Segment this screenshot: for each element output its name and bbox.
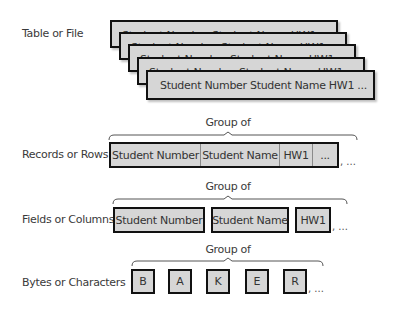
records-brace [108, 130, 360, 142]
fields-trailing-ellipsis: , ... [332, 221, 348, 232]
field-student-number: Student Number [113, 207, 205, 233]
bytes-or-characters-label: Bytes or Characters [22, 276, 125, 289]
records-or-rows-label: Records or Rows [22, 148, 108, 161]
bytes-brace [131, 256, 327, 268]
byte-e: E [245, 269, 269, 294]
field-hw1: HW1 [295, 207, 331, 233]
record-row: Student Number Student Name HW1 ... [109, 142, 339, 168]
record-cell-hw1: HW1 [280, 144, 313, 166]
fields-group-label: Group of [205, 180, 250, 193]
records-trailing-ellipsis: , ... [340, 156, 356, 167]
field-student-name: Student Name [211, 207, 289, 233]
byte-r: R [283, 269, 307, 294]
fields-or-columns-label: Fields or Columns [22, 213, 114, 226]
bytes-group-label: Group of [205, 243, 250, 256]
record-cell-ellipsis: ... [313, 144, 337, 166]
byte-k: K [206, 269, 230, 294]
records-group-label: Group of [205, 116, 250, 129]
table-card-5: Student Number Student Name HW1 ... [146, 70, 375, 100]
byte-b: B [131, 269, 155, 294]
record-cell-student-name: Student Name [201, 144, 280, 166]
bytes-trailing-ellipsis: , ... [308, 283, 324, 294]
record-cell-student-number: Student Number [111, 144, 201, 166]
table-card-text: Student Number Student Name HW1 ... [160, 79, 367, 92]
fields-brace [112, 194, 352, 206]
table-or-file-label: Table or File [22, 27, 83, 40]
byte-a: A [168, 269, 192, 294]
